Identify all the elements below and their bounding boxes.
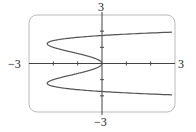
- y-min-label: −3: [94, 116, 107, 128]
- x-min-label: −3: [8, 58, 21, 70]
- y-max-label: 3: [98, 1, 104, 13]
- x-max-label: 3: [178, 58, 184, 70]
- chart: 3 −3 −3 3: [0, 0, 196, 132]
- plot-area: [0, 0, 196, 132]
